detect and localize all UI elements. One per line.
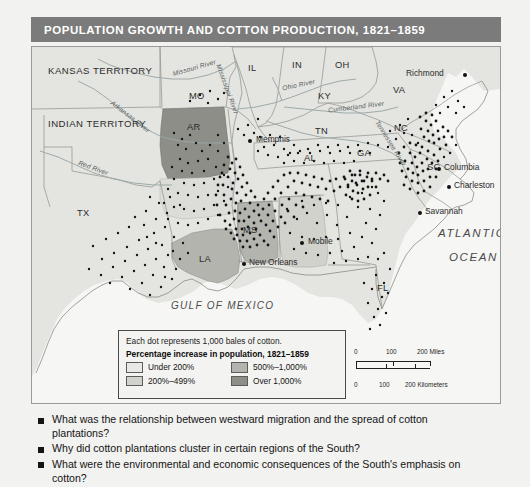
- map-figure: POPULATION GROWTH AND COTTON PRODUCTION,…: [0, 0, 530, 487]
- legend-swatch-200-499: [126, 376, 143, 387]
- map-scale-bar: 0 100 200 Miles 0 100 200 Kilometers: [353, 348, 457, 388]
- legend-item-under-200: Under 200%: [126, 362, 231, 373]
- scale-miles-tick-0: 0: [354, 348, 358, 355]
- scale-km-rule: [356, 368, 430, 369]
- scale-km-tickmark-2: [415, 364, 416, 369]
- map-legend: Each dot represents 1,000 bales of cotto…: [118, 330, 346, 399]
- bullet-square-icon: [38, 418, 44, 424]
- legend-label-200-499: 200%–499%: [148, 376, 195, 386]
- question-text-3: What were the environmental and economic…: [52, 458, 470, 485]
- scale-miles-tick-200: 200 Miles: [417, 348, 444, 355]
- question-item: What were the environmental and economic…: [31, 458, 501, 485]
- scale-km-labels: 0 100 200 Kilometers: [353, 381, 457, 391]
- legend-swatch-500-1000: [231, 362, 248, 373]
- scale-miles-tickmark-1: [393, 361, 394, 366]
- question-item: What was the relationship between westwa…: [31, 413, 501, 440]
- scale-miles-tick-100: 100: [386, 348, 397, 355]
- legend-swatch-over-1000: [231, 376, 248, 387]
- question-text-2: Why did cotton plantations cluster in ce…: [52, 442, 360, 456]
- legend-item-over-1000: Over 1,000%: [231, 376, 341, 387]
- legend-item-500-1000: 500%–1,000%: [231, 362, 341, 373]
- scale-km-tickmark-0: [356, 364, 357, 369]
- legend-dot-note: Each dot represents 1,000 bales of cotto…: [126, 336, 338, 346]
- legend-item-200-499: 200%–499%: [126, 376, 231, 387]
- scale-km-tick-0: 0: [354, 381, 358, 388]
- question-text-1: What was the relationship between westwa…: [52, 413, 470, 440]
- question-item: Why did cotton plantations cluster in ce…: [31, 442, 501, 456]
- scale-km-tickmark-1: [386, 364, 387, 369]
- legend-label-under-200: Under 200%: [148, 362, 194, 372]
- map-frame: KANSAS TERRITORY INDIAN TERRITORY MO IL …: [31, 46, 501, 404]
- scale-miles-tickmark-2: [430, 361, 431, 366]
- legend-swatch-under-200: [126, 362, 143, 373]
- bullet-square-icon: [38, 462, 44, 468]
- legend-label-500-1000: 500%–1,000%: [253, 362, 307, 372]
- discussion-questions: What was the relationship between westwa…: [31, 413, 501, 487]
- figure-title-bar: POPULATION GROWTH AND COTTON PRODUCTION,…: [31, 17, 501, 42]
- page-title: POPULATION GROWTH AND COTTON PRODUCTION,…: [44, 24, 425, 36]
- legend-class-grid: Under 200% 500%–1,000% 200%–499% Over 1,…: [126, 362, 338, 386]
- scale-km-tick-100: 100: [379, 381, 390, 388]
- scale-miles-labels: 0 100 200 Miles: [353, 348, 457, 358]
- legend-heading: Percentage increase in population, 1821–…: [126, 349, 338, 359]
- legend-label-over-1000: Over 1,000%: [253, 376, 301, 386]
- bullet-square-icon: [38, 447, 44, 453]
- scale-km-tick-200: 200 Kilometers: [405, 381, 448, 388]
